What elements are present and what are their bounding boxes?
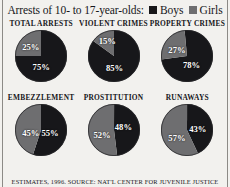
pie-chart-title: VIOLENT CRIMES [79, 19, 148, 29]
pie-chart-cell: EMBEZZLEMENT55%45% [5, 93, 77, 167]
pie-chart: 48%52% [88, 104, 140, 156]
legend-item-boys: Boys [149, 4, 184, 16]
pie-chart-cell: PROSTITUTION48%52% [77, 93, 149, 167]
pie-chart-cell: TOTAL ARRESTS75%25% [5, 19, 77, 93]
legend-item-girls: Girls [189, 4, 223, 16]
page-title: Arrests of 10- to 17-year-olds: [7, 4, 144, 16]
pie-chart-title: RUNAWAYS [166, 93, 209, 103]
pie-chart-cell: VIOLENT CRIMES85%15% [77, 19, 149, 93]
legend-swatch-girls-icon [189, 6, 197, 14]
pie-chart: 43%57% [161, 104, 213, 156]
pie-chart-title: PROSTITUTION [84, 93, 144, 103]
source-note: ESTIMATES, 1996. SOURCE: NAT'L CENTER FO… [0, 178, 230, 185]
pie-slice-boys [114, 104, 140, 156]
legend-label-girls: Girls [200, 4, 223, 16]
pie-chart: 75%25% [15, 30, 67, 82]
right-margin-rule [227, 0, 228, 187]
pie-chart: 55%45% [15, 104, 67, 156]
pie-chart: 85%15% [88, 30, 140, 82]
pie-chart-grid: TOTAL ARRESTS75%25%VIOLENT CRIMES85%15%P… [5, 19, 225, 167]
pie-chart-title: TOTAL ARRESTS [9, 19, 73, 29]
pie-chart-cell: RUNAWAYS43%57% [150, 93, 225, 167]
arrests-infographic: Arrests of 10- to 17-year-olds: Boys Gir… [0, 0, 230, 187]
pie-slice-girls [161, 30, 187, 60]
pie-chart-title: EMBEZZLEMENT [8, 93, 75, 103]
infographic-header: Arrests of 10- to 17-year-olds: Boys Gir… [0, 1, 230, 19]
legend-label-boys: Boys [160, 4, 184, 16]
pie-slice-girls [88, 104, 117, 156]
pie-chart: 78%27% [161, 30, 213, 82]
pie-chart-cell: PROPERTY CRIMES78%27% [150, 19, 225, 93]
legend-swatch-boys-icon [149, 6, 157, 14]
left-margin-rule [2, 0, 3, 187]
pie-chart-title: PROPERTY CRIMES [150, 19, 225, 29]
